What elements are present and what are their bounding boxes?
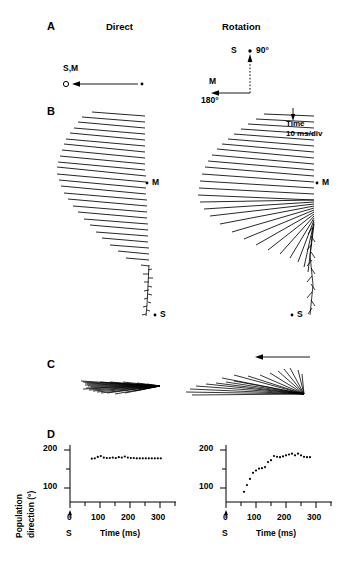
stimulus-arrow-head-icon (248, 54, 253, 62)
stimulus-dot-icon (248, 49, 251, 52)
figure-root: A Direct Rotation S,M S 90° M 180° B (0, 0, 339, 566)
panel-d-direct-xtick-0: 0 (67, 512, 72, 522)
panel-b-rotation-m-label: M (322, 177, 329, 187)
panel-d-direct-ytick-200: 200 (43, 443, 57, 453)
panel-c-rotation-vector-group (186, 368, 304, 395)
time-label: Time (286, 119, 305, 129)
panel-d-direct-xtick-100: 100 (91, 512, 105, 522)
panel-d-rotation-xlabel: Time (ms) (256, 528, 296, 538)
panel-b-rotation-sweep-group (200, 200, 314, 272)
panel-d-direct-xlabel: Time (ms) (100, 528, 140, 538)
panel-letter-c: C (47, 358, 55, 370)
panel-b-rotation-s-label: S (297, 309, 303, 319)
panel-c-direct-vectors (55, 360, 180, 400)
panel-d-direct-x-ticks (70, 502, 175, 508)
panel-b-direct-s-label: S (160, 309, 166, 319)
panel-a-direct-sm-label: S,M (63, 63, 78, 73)
panel-c-direct-vector-group (81, 381, 160, 394)
panel-b-rotation-m-dot-icon (314, 180, 320, 186)
panel-b-rotation-vectors (186, 110, 331, 320)
panel-d-direct-onset-label: S (66, 528, 72, 538)
panel-d-rotation-ytick-100: 100 (199, 481, 213, 491)
panel-a-rotation-diagram (190, 42, 300, 97)
panel-d-rotation-ytick-200: 200 (199, 443, 213, 453)
panel-a-rotation-180-label: 180° (201, 95, 219, 105)
panel-d-rotation-xtick-200: 200 (277, 512, 291, 522)
panel-letter-d: D (47, 428, 55, 440)
time-scale-label: 10 ms/div (286, 129, 322, 139)
column-title-direct: Direct (106, 21, 133, 32)
panel-a-rotation-m-label: M (209, 76, 216, 86)
origin-circle-icon (63, 81, 68, 86)
target-dot-icon (141, 83, 144, 86)
panel-d-rotation-xtick-300: 300 (307, 512, 321, 522)
panel-d-rotation-x-ticks (226, 502, 331, 508)
panel-d-direct-xtick-300: 300 (151, 512, 165, 522)
panel-b-direct-m-dot-icon (144, 180, 150, 186)
panel-b-direct-vectors (40, 110, 185, 320)
panel-c-rotation-vectors (186, 348, 331, 403)
panel-a-rotation-s-label: S (231, 45, 237, 55)
panel-b-direct-vector-group (57, 112, 149, 260)
panel-d-direct-data-points (91, 455, 162, 460)
panel-a-rotation-90-label: 90° (256, 45, 269, 55)
panel-d-rotation-xtick-0: 0 (223, 512, 228, 522)
panel-b-direct-m-label: M (152, 177, 159, 187)
panel-d-rotation-xtick-100: 100 (247, 512, 261, 522)
panel-b-direct-s-dot-icon (152, 312, 158, 318)
panel-b-rotation-s-dot-icon (289, 312, 295, 318)
panel-d-rotation-onset-label: S (222, 528, 228, 538)
column-title-rotation: Rotation (222, 21, 261, 32)
panel-letter-a: A (47, 20, 55, 32)
panel-b-direct-tail-group (141, 265, 153, 316)
panel-c-reference-arrow-head-icon (255, 354, 263, 359)
movement-arrow-head-icon (72, 81, 80, 86)
panel-d-rotation-data-points (243, 453, 311, 493)
panel-d-direct-ytick-100: 100 (43, 481, 57, 491)
panel-d-direct-xtick-200: 200 (121, 512, 135, 522)
